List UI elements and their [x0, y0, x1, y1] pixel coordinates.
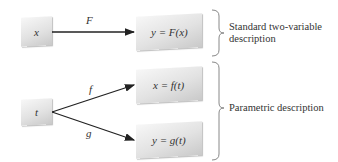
arrow-label-f: f [89, 83, 92, 95]
input-x-label: x [34, 26, 39, 38]
output-x-f-t-label: x = f(t) [153, 79, 184, 91]
parametric-description: Parametric description [229, 102, 324, 114]
output-y-g-t-label: y = g(t) [152, 134, 186, 146]
output-box-y-g-t: y = g(t) [136, 121, 202, 158]
arrow-f [52, 85, 134, 112]
arrow-label-F: F [86, 14, 93, 26]
input-box-x: x [21, 16, 52, 47]
brace-standard [212, 10, 224, 56]
input-t-label: t [35, 106, 38, 118]
arrow-label-g: g [86, 127, 92, 139]
output-y-F-x-label: y = F(x) [151, 26, 188, 38]
input-box-t: t [21, 98, 52, 126]
standard-description-line2: description [229, 33, 322, 45]
arrow-g [52, 112, 134, 140]
brace-parametric [212, 62, 224, 160]
standard-description-line1: Standard two-variable [229, 21, 322, 33]
output-box-y-F-x: y = F(x) [136, 13, 202, 50]
standard-description: Standard two-variable description [229, 21, 322, 45]
output-box-x-f-t: x = f(t) [136, 66, 202, 103]
